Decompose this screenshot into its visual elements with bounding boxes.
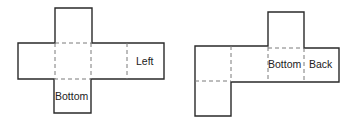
net-2-label-bottom: Bottom [268, 58, 302, 70]
net-2-label-back: Back [309, 58, 333, 70]
cube-nets-diagram: Left Bottom Bottom Back [0, 0, 353, 130]
net-2: Bottom Back [195, 12, 339, 116]
net-1-label-left: Left [136, 55, 154, 67]
net-1-label-bottom: Bottom [55, 90, 89, 102]
net-1: Left Bottom [18, 8, 164, 113]
